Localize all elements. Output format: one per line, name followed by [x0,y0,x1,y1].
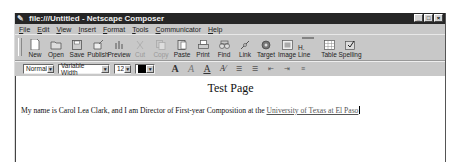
link-button[interactable]: Link [235,39,255,60]
clipboard-icon [176,39,188,50]
maximize-button[interactable]: □ [424,14,433,22]
text-caret [359,106,360,114]
numbered-list-button[interactable]: ☰ [249,63,261,74]
menu-file[interactable]: File [19,26,30,33]
publish-icon [92,39,104,50]
menu-edit[interactable]: Edit [37,26,49,33]
clear-styles-button[interactable]: A⁄ [217,63,229,74]
close-button[interactable]: × [434,14,443,22]
underline-button[interactable]: A [201,63,213,74]
font-select[interactable]: Variable Width ▼ [58,64,110,74]
preview-button[interactable]: Preview [109,39,129,60]
menu-communicator[interactable]: Communicator [155,26,201,33]
page-heading: Test Page [16,81,445,96]
font-size-select[interactable]: 12 ▼ [114,64,131,74]
body-paragraph: My name is Carol Lea Clark, and I am Dir… [16,106,445,115]
publish-button[interactable]: Publish [88,39,108,60]
chevron-down-icon: ▼ [47,65,54,73]
alignment-button[interactable]: ≡ [297,63,309,74]
formatting-toolbar: Normal ▼ Variable Width ▼ 12 ▼ ▼ A A A A… [15,61,445,77]
editor-area[interactable]: Test Page My name is Carol Lea Clark, an… [15,76,445,162]
binoculars-icon [218,39,230,50]
composition-toolbar: New Open Save Publish Preview Cut Copy [15,35,445,61]
title-bar[interactable]: ✎ file:///Untitled - Netscape Composer _… [15,13,445,24]
composer-window: ✎ file:///Untitled - Netscape Composer _… [14,13,446,162]
open-button[interactable]: Open [46,39,66,60]
bulleted-list-button[interactable]: ☰ [233,63,245,74]
table-button[interactable]: Table [319,39,339,60]
hline-button[interactable]: H. Line [298,32,318,60]
cut-button[interactable]: Cut [130,39,150,60]
minimize-button[interactable]: _ [414,14,423,22]
scissors-icon [134,39,146,50]
link-icon [239,39,251,50]
save-button[interactable]: Save [67,39,87,60]
horizontal-line-icon [302,32,314,43]
floppy-disk-icon [71,39,83,50]
italic-button[interactable]: A [185,63,197,74]
copy-button[interactable]: Copy [151,39,171,60]
window-title: file:///Untitled - Netscape Composer [29,14,164,23]
menu-tools[interactable]: Tools [132,26,148,33]
printer-icon [197,39,209,50]
open-folder-icon [50,39,62,50]
spelling-icon [344,39,356,50]
chevron-down-icon: ▼ [146,65,154,73]
color-swatch [138,65,146,73]
paragraph-style-select[interactable]: Normal ▼ [23,64,54,74]
menu-insert[interactable]: Insert [78,26,96,33]
target-button[interactable]: Target [256,39,276,60]
toolbar-grip[interactable] [18,38,22,56]
menu-help[interactable]: Help [208,26,222,33]
target-icon [260,39,272,50]
menu-view[interactable]: View [56,26,71,33]
menu-format[interactable]: Format [103,26,125,33]
increase-indent-button[interactable]: ⇥ [281,63,293,74]
new-page-icon [29,39,41,50]
menu-bar: File Edit View Insert Format Tools Commu… [15,24,445,35]
table-icon [323,39,335,50]
image-button[interactable]: Image [277,39,297,60]
print-button[interactable]: Print [193,39,213,60]
copy-icon [155,39,167,50]
chevron-down-icon: ▼ [124,65,131,73]
find-button[interactable]: Find [214,39,234,60]
chevron-down-icon: ▼ [101,65,109,73]
new-button[interactable]: New [25,39,45,60]
decrease-indent-button[interactable]: ⇤ [265,63,277,74]
bold-button[interactable]: A [169,63,181,74]
netscape-app-icon: ✎ [17,14,26,23]
paste-button[interactable]: Paste [172,39,192,60]
image-icon [281,39,293,50]
text-color-select[interactable]: ▼ [135,64,155,74]
preview-icon [113,39,125,50]
spelling-button[interactable]: Spelling [340,39,360,60]
university-link[interactable]: University of Texas at El Paso [266,106,358,115]
